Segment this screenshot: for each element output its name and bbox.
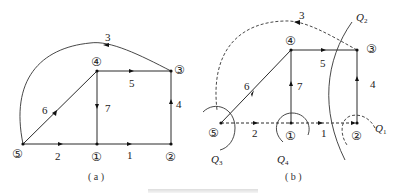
graph-a: ⑤ ① ② ④ ③ 2 1 3 4 5 6 7 ( a ) [12, 31, 185, 183]
node-label-a-2: ② [165, 150, 176, 164]
arrow-b-5 [321, 48, 326, 52]
cutset-label-q2: Q2 [356, 11, 368, 25]
arrow-a-1 [127, 142, 132, 146]
figure: ⑤ ① ② ④ ③ 2 1 3 4 5 6 7 ( a ) [0, 0, 395, 193]
node-label-a-1: ① [91, 150, 102, 164]
node-b-4 [289, 48, 292, 51]
node-b-1 [289, 121, 292, 124]
edge-label-a-7: 7 [105, 102, 111, 114]
arrow-b-1b [351, 121, 356, 125]
node-a-2 [169, 142, 172, 145]
edge-label-b-5: 5 [320, 57, 326, 69]
node-b-3 [355, 48, 358, 51]
arrow-a-2 [58, 142, 63, 146]
edge-label-a-2: 2 [55, 150, 61, 162]
edge-label-b-7: 7 [297, 80, 303, 92]
arrow-a-7 [95, 104, 99, 109]
cutset-label-q3: Q3 [211, 153, 223, 167]
node-label-b-3: ③ [366, 42, 377, 56]
graph-b: ⑤ ① ② ④ ③ 2 1 3 4 5 6 7 Q1 Q2 Q3 Q4 ( b … [203, 9, 387, 183]
cutset-label-q4: Q4 [277, 153, 289, 167]
edge-a-6 [23, 71, 97, 144]
node-label-a-5: ⑤ [12, 147, 23, 161]
cutset-q2 [329, 22, 352, 160]
cutset-label-q1: Q1 [375, 122, 387, 136]
node-label-b-5: ⑤ [208, 126, 219, 140]
edge-label-a-5: 5 [129, 77, 135, 89]
arrow-a-4 [169, 99, 173, 104]
node-label-a-3: ③ [174, 63, 185, 77]
node-b-2 [355, 121, 358, 124]
node-label-b-1: ① [285, 129, 296, 143]
node-a-5 [21, 142, 24, 145]
cropped-figure-caption [148, 189, 258, 193]
node-a-3 [169, 69, 172, 72]
node-a-4 [95, 69, 98, 72]
node-b-5 [219, 121, 222, 124]
node-label-b-4: ④ [285, 34, 296, 48]
arrow-b-7 [289, 81, 293, 86]
edge-label-a-6: 6 [42, 104, 48, 116]
arrow-a-5 [129, 69, 134, 73]
arrow-b-2 [253, 121, 258, 125]
edge-b-6 [221, 50, 291, 123]
edge-label-b-6: 6 [244, 80, 250, 92]
edge-label-b-1: 1 [321, 127, 327, 139]
arrow-b-1 [318, 121, 323, 125]
node-label-b-2: ② [351, 129, 362, 143]
edge-label-b-2: 2 [252, 127, 258, 139]
caption-b: ( b ) [285, 171, 302, 183]
caption-a: ( a ) [88, 171, 104, 183]
arrow-b-4 [355, 76, 359, 81]
edge-label-b-4: 4 [370, 78, 376, 90]
edge-label-a-1: 1 [127, 149, 133, 161]
edge-label-a-4: 4 [176, 98, 182, 110]
node-a-1 [95, 142, 98, 145]
edge-label-a-3: 3 [105, 31, 111, 43]
node-label-a-4: ④ [91, 55, 102, 69]
edge-label-b-3: 3 [299, 9, 305, 21]
